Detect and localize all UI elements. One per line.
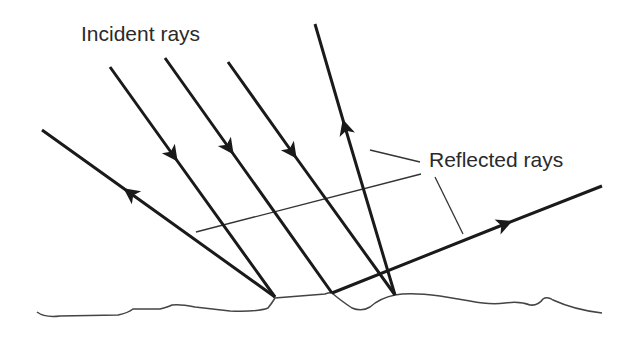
diagram-canvas [0, 0, 628, 345]
incident-rays [110, 58, 395, 297]
reflected-ray-1 [42, 130, 275, 297]
incident-ray-3 [228, 62, 395, 295]
reflected-rays-label: Reflected rays [429, 149, 563, 170]
incident-rays-label: Incident rays [81, 23, 200, 44]
leader-line-2 [196, 174, 421, 232]
leader-line-1 [370, 150, 420, 162]
reflection-diagram: Incident rays Reflected rays [0, 0, 628, 345]
rough-surface [37, 293, 602, 317]
incident-ray-1 [110, 67, 275, 297]
reflected-ray-3 [332, 186, 602, 293]
reflected-ray-2 [315, 24, 395, 295]
leader-line-3 [435, 177, 463, 234]
